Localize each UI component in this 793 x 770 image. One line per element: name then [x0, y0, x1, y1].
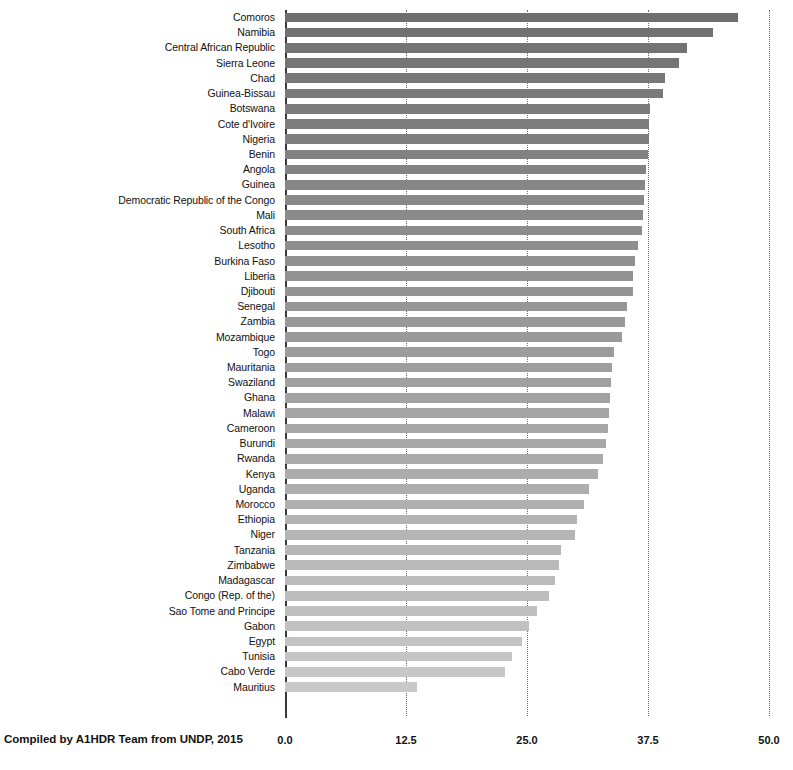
category-label: Senegal	[0, 299, 281, 314]
bar	[285, 195, 644, 205]
bar	[285, 332, 622, 342]
bar-row	[285, 25, 769, 40]
category-label: Nigeria	[0, 132, 281, 147]
bar-row	[285, 360, 769, 375]
category-label: Guinea	[0, 177, 281, 192]
bar	[285, 58, 679, 68]
bar-row	[285, 71, 769, 86]
bar-row	[285, 162, 769, 177]
category-label: Chad	[0, 71, 281, 86]
bar-row	[285, 451, 769, 466]
bar	[285, 89, 663, 99]
bar	[285, 530, 575, 540]
bar-row	[285, 543, 769, 558]
bar-row	[285, 193, 769, 208]
bar	[285, 150, 648, 160]
category-label: Comoros	[0, 10, 281, 25]
category-label: Zimbabwe	[0, 558, 281, 573]
category-label: Mali	[0, 208, 281, 223]
bar-row	[285, 436, 769, 451]
category-label: Benin	[0, 147, 281, 162]
bar-row	[285, 299, 769, 314]
x-tick-label: 25.0	[516, 734, 537, 746]
bar-row	[285, 649, 769, 664]
category-label: Cote d'Ivoire	[0, 117, 281, 132]
category-label: Angola	[0, 162, 281, 177]
category-label: Djibouti	[0, 284, 281, 299]
bar	[285, 28, 713, 38]
bar	[285, 439, 606, 449]
bar	[285, 317, 625, 327]
bar-row	[285, 467, 769, 482]
bar	[285, 424, 608, 434]
x-tick-label: 12.5	[395, 734, 416, 746]
category-label: Rwanda	[0, 451, 281, 466]
category-label: Morocco	[0, 497, 281, 512]
category-label: Malawi	[0, 406, 281, 421]
bar-row	[285, 117, 769, 132]
bar-row	[285, 527, 769, 542]
bar-chart: ComorosNamibiaCentral African RepublicSi…	[0, 0, 793, 770]
category-label: Sierra Leone	[0, 56, 281, 71]
bar-row	[285, 223, 769, 238]
bar	[285, 363, 612, 373]
bar	[285, 393, 610, 403]
category-label: Madagascar	[0, 573, 281, 588]
bar	[285, 73, 665, 83]
bar-row	[285, 314, 769, 329]
category-label: Mauritania	[0, 360, 281, 375]
bar	[285, 287, 633, 297]
bar-row	[285, 56, 769, 71]
category-label: Tanzania	[0, 543, 281, 558]
category-label: Uganda	[0, 482, 281, 497]
bar-row	[285, 634, 769, 649]
bar	[285, 560, 559, 570]
category-label: Lesotho	[0, 238, 281, 253]
bar	[285, 13, 738, 23]
bar	[285, 515, 577, 525]
category-label: Central African Republic	[0, 40, 281, 55]
plot-area	[285, 10, 769, 710]
bar-row	[285, 254, 769, 269]
bar	[285, 378, 611, 388]
category-label: Guinea-Bissau	[0, 86, 281, 101]
bar-row	[285, 664, 769, 679]
bar	[285, 591, 549, 601]
bar	[285, 104, 650, 114]
bar-row	[285, 147, 769, 162]
category-label: Tunisia	[0, 649, 281, 664]
bar	[285, 134, 649, 144]
bar-row	[285, 588, 769, 603]
bar-row	[285, 40, 769, 55]
bar	[285, 576, 555, 586]
category-label: Gabon	[0, 619, 281, 634]
bar	[285, 119, 649, 129]
category-label: Zambia	[0, 314, 281, 329]
bar-row	[285, 680, 769, 695]
category-label: Burundi	[0, 436, 281, 451]
category-label: Niger	[0, 527, 281, 542]
bar-row	[285, 345, 769, 360]
category-label: Ghana	[0, 390, 281, 405]
category-label: Kenya	[0, 467, 281, 482]
bar	[285, 682, 417, 692]
bar-row	[285, 284, 769, 299]
bar	[285, 484, 589, 494]
category-label: Namibia	[0, 25, 281, 40]
bar-row	[285, 421, 769, 436]
bar-row	[285, 573, 769, 588]
bar-row	[285, 482, 769, 497]
bar-rows	[285, 10, 769, 695]
bar	[285, 454, 603, 464]
bar-row	[285, 375, 769, 390]
bar-row	[285, 390, 769, 405]
bar	[285, 226, 642, 236]
bar	[285, 621, 529, 631]
bar-row	[285, 10, 769, 25]
category-label: Cameroon	[0, 421, 281, 436]
bar-row	[285, 330, 769, 345]
bar	[285, 165, 646, 175]
bar-row	[285, 177, 769, 192]
bar	[285, 652, 512, 662]
category-label: Congo (Rep. of the)	[0, 588, 281, 603]
